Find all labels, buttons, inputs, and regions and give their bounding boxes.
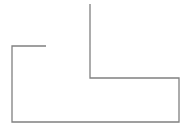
line-diagram xyxy=(0,0,189,129)
outline-path xyxy=(12,4,179,122)
